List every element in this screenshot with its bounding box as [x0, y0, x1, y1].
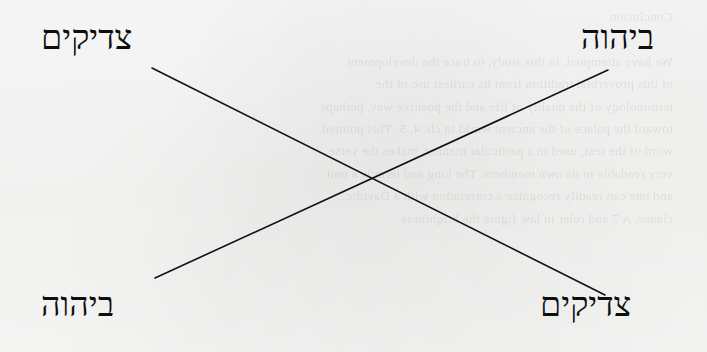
label-bottom-left: ביהוה [41, 288, 114, 322]
label-bottom-right: צדיקים [540, 288, 631, 322]
label-top-left: צדיקים [41, 21, 132, 55]
chiasm-figure: Conclusion We have attempted, in this st… [0, 0, 707, 352]
line-tzadikim-to-tzadikim [152, 68, 605, 295]
label-top-right: ביהוה [581, 21, 654, 55]
line-byhwh-to-byhwh [155, 70, 608, 278]
